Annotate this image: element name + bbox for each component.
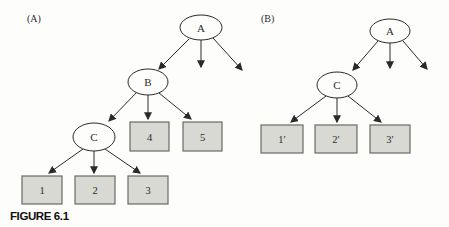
tree-a-node-A: A [180,15,222,40]
figure-caption: FIGURE 6.1 [10,210,70,222]
edge-a-to-b [159,39,189,69]
edge-b-to-c [109,92,137,121]
panel-a: (A) A B C [22,13,242,204]
edge-c-to-leaf1prime [291,96,326,122]
tree-a-leaf-2: 2 [75,176,115,204]
tree-a-leaf-5: 5 [183,122,222,151]
tree-b-node-A-label: A [386,25,394,37]
tree-a-leaf-2-label: 2 [92,185,97,196]
tree-a-node-A-label: A [197,22,205,34]
tree-a-leaf-1-label: 1 [39,185,44,196]
tree-b-leaf-2prime: 2′ [315,125,357,153]
tree-b-leaf-3prime: 3′ [370,125,410,153]
tree-a-node-B-label: B [144,76,151,88]
tree-a-leaf-3: 3 [128,176,168,204]
figure-6-1: (A) A B C [0,0,449,227]
tree-b-node-C-label: C [333,79,340,91]
tree-b-leaf-1prime: 1′ [261,125,303,153]
edge-c-to-leaf3 [105,149,140,173]
edge-a-to-c [353,41,378,70]
panel-a-label: (A) [27,13,41,25]
tree-a-leaf-1: 1 [22,176,62,204]
edge-b-to-leaf5 [159,93,191,119]
tree-a-leaf-4-label: 4 [147,132,153,143]
tree-a-node-C: C [73,123,115,151]
tree-a-leaf-5-label: 5 [200,132,205,143]
tree-a-leaf-3-label: 3 [145,185,150,196]
tree-diagram-canvas: (A) A B C [0,0,449,227]
tree-b-leaf-3prime-label: 3′ [386,134,394,145]
tree-b-leaf-1prime-label: 1′ [278,134,286,145]
edge-a-dangling-right-b [403,41,427,69]
tree-a-leaf-4: 4 [130,122,169,151]
tree-b-node-A: A [370,19,410,43]
panel-b: (B) A C 1′ [261,13,427,153]
edge-c-to-leaf1 [49,149,83,173]
tree-b-leaf-2prime-label: 2′ [332,134,340,145]
tree-b-node-C: C [317,72,357,98]
tree-a-node-B: B [128,69,168,95]
edge-c-to-leaf3prime [348,96,381,122]
edge-a-dangling-right [213,38,242,70]
panel-b-label: (B) [261,13,274,25]
tree-a-node-C-label: C [90,131,97,143]
